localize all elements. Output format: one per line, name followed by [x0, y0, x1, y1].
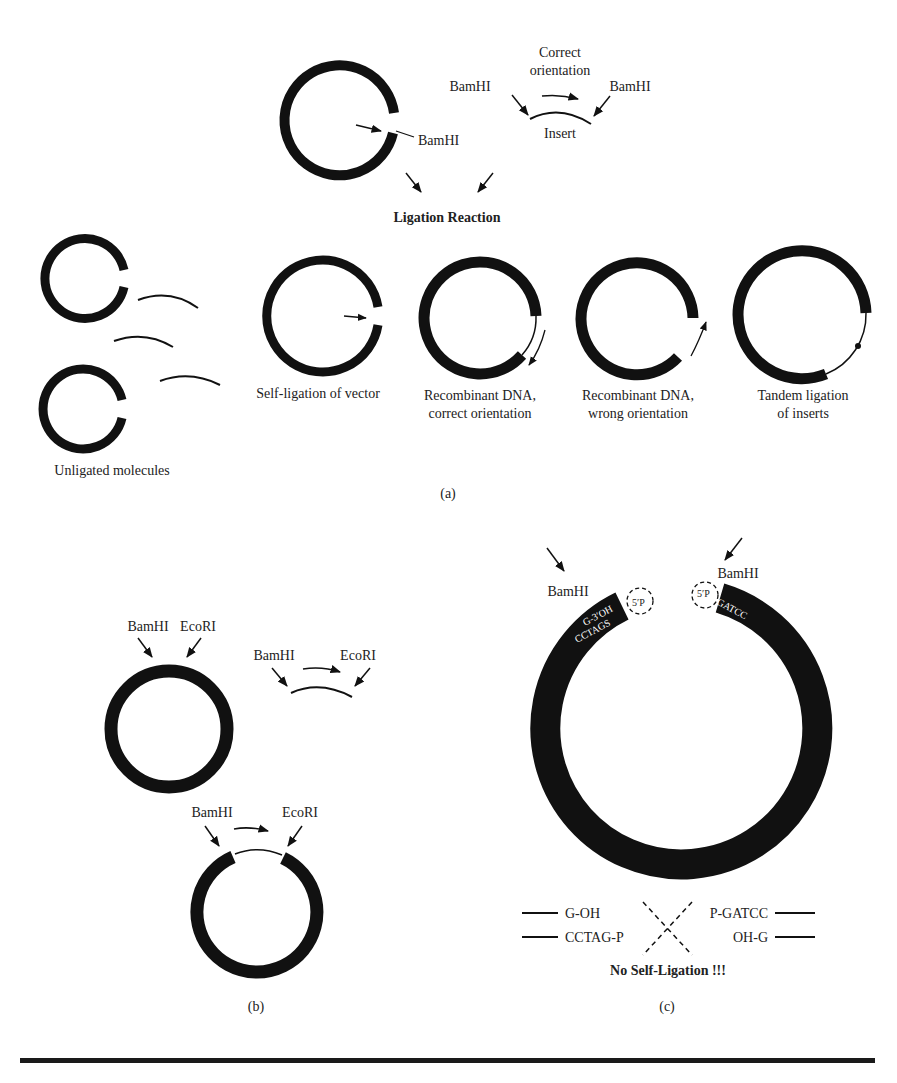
site-leader	[396, 131, 414, 137]
product-2-label-2: correct orientation	[428, 406, 531, 421]
caption-divider	[20, 1058, 875, 1063]
scheme-left-top: G-OH	[565, 906, 600, 921]
product-3-label-1: Recombinant DNA,	[582, 388, 694, 403]
insert-label: Insert	[544, 126, 576, 141]
arrow-icon	[512, 95, 528, 115]
dual-site-vector	[111, 671, 227, 787]
recombinant-wrong-vector	[581, 263, 693, 375]
left-site-label: BamHI	[547, 584, 589, 599]
unligated-insert-2	[114, 337, 173, 347]
orientation-arrow-icon	[691, 322, 706, 356]
cut-vector-circle	[284, 65, 394, 175]
right-phosphate: 5′P	[697, 588, 710, 599]
product-site-2: EcoRI	[282, 805, 318, 820]
arrow-icon	[594, 96, 610, 116]
scheme-right-bottom: OH-G	[733, 930, 768, 945]
recombinant-correct-insert	[522, 316, 536, 355]
arrow-icon	[478, 173, 493, 192]
vector-site-2: EcoRI	[180, 619, 216, 634]
arrow-icon	[406, 173, 421, 192]
left-phosphate: 5′P	[632, 597, 645, 608]
insert-left-site: BamHI	[449, 79, 491, 94]
insert-fragment	[530, 113, 591, 124]
insert-fragment	[291, 687, 352, 697]
orientation-arrow-icon	[303, 668, 340, 672]
right-site-label: BamHI	[717, 566, 759, 581]
insert-site-2: EcoRI	[340, 648, 376, 663]
recombinant-correct-vector	[424, 262, 536, 374]
site-arrow	[356, 125, 381, 131]
ligation-reaction-title: Ligation Reaction	[394, 210, 501, 225]
self-ligated-vector	[267, 260, 378, 372]
insert-junction-dot	[855, 343, 861, 349]
tandem-inserts	[826, 313, 866, 374]
arrow-icon	[725, 538, 742, 560]
vector-site-label: BamHI	[418, 133, 460, 148]
product-4-label-2: of inserts	[777, 406, 829, 421]
panel-a: BamHI Correct orientation BamHI BamHI In…	[43, 45, 866, 502]
arrow-icon	[344, 316, 366, 318]
unligated-label: Unligated molecules	[54, 463, 169, 478]
product-3-label-2: wrong orientation	[588, 406, 688, 421]
arrow-icon	[547, 548, 564, 571]
orientation-arrow-icon	[542, 95, 578, 99]
panel-b-label: (b)	[248, 999, 265, 1015]
vector-site-1: BamHI	[127, 619, 169, 634]
product-site-1: BamHI	[191, 805, 233, 820]
insert-right-site: BamHI	[609, 79, 651, 94]
panel-a-label: (a)	[440, 486, 456, 502]
unligated-vector-1	[45, 239, 124, 319]
directional-insert	[235, 850, 282, 855]
panel-b: BamHI EcoRI BamHI EcoRI BamHI EcoRI (b)	[111, 619, 376, 1015]
arrow-icon	[288, 826, 302, 846]
ligation-figure: BamHI Correct orientation BamHI BamHI In…	[0, 0, 897, 1083]
scheme-left-bottom: CCTAG-P	[565, 930, 624, 945]
arrow-icon	[205, 826, 219, 846]
arrow-icon	[272, 668, 287, 686]
unligated-vector-2	[43, 369, 122, 449]
product-1-label: Self-ligation of vector	[256, 386, 380, 401]
unligated-insert-3	[160, 376, 220, 385]
orientation-arrow-icon	[234, 828, 268, 831]
insert-title-1: Correct	[539, 45, 581, 60]
insert-title-2: orientation	[530, 63, 591, 78]
product-4-label-1: Tandem ligation	[757, 388, 848, 403]
arrow-icon	[187, 638, 201, 657]
arrow-icon	[138, 638, 152, 657]
arrow-icon	[355, 668, 370, 686]
recombinant-vector	[197, 857, 317, 972]
no-self-ligation-title: No Self-Ligation !!!	[610, 963, 726, 978]
panel-c: BamHI BamHI G-3′OH CCTAGS 5′P 5′P GATCC …	[522, 538, 817, 1015]
panel-c-label: (c)	[659, 999, 675, 1015]
unligated-insert-1	[138, 296, 198, 309]
insert-site-1: BamHI	[253, 648, 295, 663]
scheme-right-top: P-GATCC	[710, 906, 768, 921]
product-2-label-1: Recombinant DNA,	[424, 388, 536, 403]
orientation-arrow-icon	[529, 330, 545, 365]
